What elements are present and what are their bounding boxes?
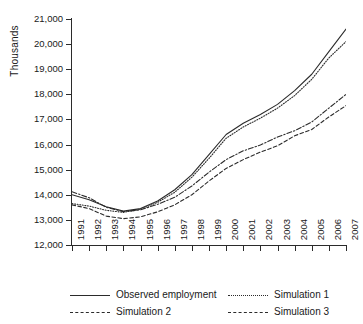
series-line-simulation-2 [72, 94, 346, 211]
x-tick-mark [72, 246, 73, 251]
y-tick-mark [66, 119, 72, 120]
x-tick-label: 2000 [230, 219, 240, 253]
y-tick-label: 21,000 [18, 14, 63, 24]
x-tick-label: 1992 [93, 219, 103, 253]
series-layer [72, 19, 346, 245]
x-tick-mark [226, 246, 227, 251]
y-tick-mark [66, 220, 72, 221]
y-tick-mark [66, 195, 72, 196]
legend-swatch-dashdot-icon [70, 312, 110, 313]
series-line-simulation-3 [72, 106, 346, 219]
legend-swatch-solid-icon [70, 295, 110, 296]
legend-item-simulation-1: Simulation 1 [228, 288, 329, 302]
x-tick-label: 1995 [145, 219, 155, 253]
x-tick-label: 2002 [264, 219, 274, 253]
legend-swatch-dashed-icon [228, 312, 268, 313]
y-tick-label: 14,000 [18, 190, 63, 200]
legend-label: Simulation 3 [274, 307, 329, 317]
y-tick-label: 18,000 [18, 89, 63, 99]
x-tick-label: 2005 [316, 219, 326, 253]
x-tick-mark [312, 246, 313, 251]
x-tick-mark [158, 246, 159, 251]
y-tick-label: 20,000 [18, 39, 63, 49]
legend-swatch-dotted-icon [228, 295, 268, 296]
x-tick-mark [329, 246, 330, 251]
legend-item-simulation-2: Simulation 2 [70, 305, 171, 319]
x-tick-label: 1997 [179, 219, 189, 253]
x-tick-mark [346, 246, 347, 251]
line-chart: Thousands 12,00013,00014,00015,00016,000… [0, 0, 363, 324]
x-tick-mark [106, 246, 107, 251]
legend-item-simulation-3: Simulation 3 [228, 305, 329, 319]
x-tick-label: 1996 [162, 219, 172, 253]
x-tick-label: 2004 [299, 219, 309, 253]
x-tick-label: 2007 [350, 219, 360, 253]
legend-label: Simulation 1 [274, 290, 329, 300]
x-tick-label: 1998 [196, 219, 206, 253]
x-tick-label: 2006 [333, 219, 343, 253]
series-line-simulation-1 [72, 42, 346, 213]
legend-label: Simulation 2 [116, 307, 171, 317]
x-tick-mark [123, 246, 124, 251]
y-axis-tick-labels: 12,00013,00014,00015,00016,00017,00018,0… [18, 0, 63, 324]
x-tick-label: 1993 [110, 219, 120, 253]
y-tick-label: 19,000 [18, 64, 63, 74]
y-tick-label: 16,000 [18, 140, 63, 150]
y-tick-mark [66, 44, 72, 45]
y-tick-mark [66, 170, 72, 171]
x-tick-label: 2003 [282, 219, 292, 253]
x-tick-mark [89, 246, 90, 251]
x-tick-mark [175, 246, 176, 251]
y-tick-label: 15,000 [18, 165, 63, 175]
x-tick-mark [141, 246, 142, 251]
x-tick-mark [278, 246, 279, 251]
x-tick-label: 1994 [127, 219, 137, 253]
x-tick-mark [209, 246, 210, 251]
x-tick-label: 2001 [247, 219, 257, 253]
chart-legend: Observed employment Simulation 1 Simulat… [60, 288, 355, 320]
y-tick-mark [66, 145, 72, 146]
x-tick-mark [295, 246, 296, 251]
x-tick-label: 1991 [76, 219, 86, 253]
legend-item-observed-employment: Observed employment [70, 288, 217, 302]
y-tick-mark [66, 19, 72, 20]
x-tick-mark [260, 246, 261, 251]
x-tick-label: 1999 [213, 219, 223, 253]
series-line-observed-employment [72, 29, 346, 211]
y-tick-label: 17,000 [18, 114, 63, 124]
y-tick-label: 13,000 [18, 215, 63, 225]
x-tick-mark [192, 246, 193, 251]
x-tick-mark [243, 246, 244, 251]
y-tick-label: 12,000 [18, 240, 63, 250]
y-tick-mark [66, 69, 72, 70]
plot-area [72, 19, 346, 245]
legend-label: Observed employment [116, 290, 217, 300]
y-tick-mark [66, 94, 72, 95]
